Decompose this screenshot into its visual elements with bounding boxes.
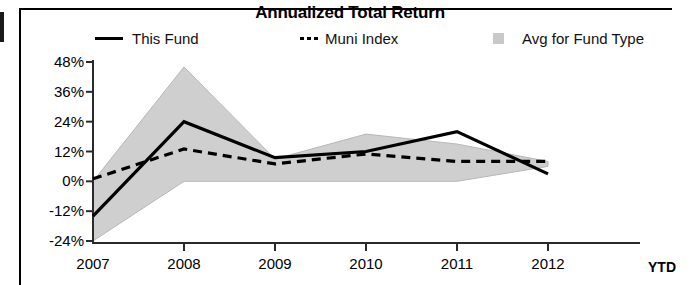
y-axis-ticks	[86, 62, 93, 241]
x-axis-ticks	[184, 243, 548, 251]
x-tick-label: 2011	[441, 256, 473, 272]
plot-area: 48%36%24%12%0%-12%-24% 20072008200920102…	[0, 0, 690, 285]
chart-screenshot: Annualized Total Return This Fund Muni I…	[0, 0, 690, 285]
chart-canvas	[0, 0, 690, 285]
x-tick-label: 2007	[76, 256, 109, 272]
x-tick-label: 2012	[531, 256, 564, 272]
x-tick-label: 2010	[349, 256, 382, 272]
ytd-label: YTD	[648, 259, 676, 275]
x-tick-label: 2008	[167, 256, 200, 272]
x-tick-label: 2009	[258, 256, 291, 272]
x-axis-tick-labels: 200720082009201020112012	[0, 256, 690, 278]
